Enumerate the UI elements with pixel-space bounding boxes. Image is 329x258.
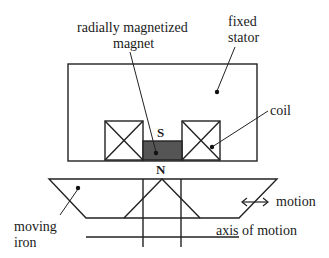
magnet-label-line1: radially magnetized <box>77 20 188 35</box>
magnet-label-line2: magnet <box>113 36 154 51</box>
axis-label: axis of motion <box>216 223 297 238</box>
stator-label-line1: fixed <box>228 14 257 29</box>
coil-dot <box>210 145 214 149</box>
north-pole-label: N <box>156 162 165 177</box>
moving-iron <box>49 179 277 218</box>
radial-magnet <box>143 141 182 160</box>
iron-label-line2: iron <box>14 235 37 250</box>
coil-left <box>105 121 143 160</box>
magnet-dot <box>154 151 158 155</box>
stator-dot <box>215 90 219 94</box>
iron-dot <box>76 186 80 190</box>
motion-label: motion <box>276 194 316 209</box>
south-pole-label: S <box>157 125 164 140</box>
actuator-diagram: radially magnetized magnet fixed stator … <box>0 0 329 258</box>
coil-label: coil <box>270 103 291 118</box>
stator-leader <box>217 47 235 91</box>
coil-right <box>182 121 220 160</box>
stator-label-line2: stator <box>228 30 259 45</box>
iron-label-line1: moving <box>14 219 57 234</box>
iron-triangle <box>124 179 200 218</box>
motion-arrow-icon <box>242 198 268 206</box>
